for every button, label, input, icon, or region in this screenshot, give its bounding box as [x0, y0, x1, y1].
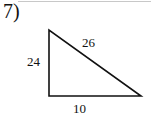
vertical-leg-label: 24: [27, 55, 40, 68]
horizontal-leg-label: 10: [73, 102, 86, 115]
hypotenuse-label: 26: [82, 36, 95, 49]
